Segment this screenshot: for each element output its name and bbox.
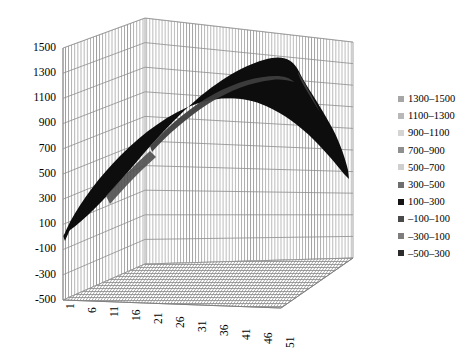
legend-item[interactable]: –300–100 bbox=[398, 228, 475, 245]
x-tick-label: 26 bbox=[175, 317, 187, 329]
legend: 1300–1500 1100–1300 900–1100 700–900 500… bbox=[398, 90, 475, 262]
legend-item[interactable]: 700–900 bbox=[398, 142, 475, 159]
legend-label: 1100–1300 bbox=[408, 110, 455, 121]
legend-swatch-icon bbox=[398, 147, 404, 153]
legend-label: –500–300 bbox=[408, 248, 450, 259]
legend-item[interactable]: –500–300 bbox=[398, 245, 475, 262]
x-tick-label: 41 bbox=[241, 329, 253, 341]
legend-swatch-icon bbox=[398, 199, 404, 205]
legend-swatch-icon bbox=[398, 250, 404, 256]
legend-item[interactable]: 100–300 bbox=[398, 193, 475, 210]
legend-item[interactable]: 1300–1500 bbox=[398, 90, 475, 107]
legend-item[interactable]: –100–100 bbox=[398, 210, 475, 227]
legend-label: 900–1100 bbox=[408, 127, 450, 138]
legend-label: –300–100 bbox=[408, 231, 450, 242]
x-tick-label: 6 bbox=[87, 307, 99, 313]
legend-item[interactable]: 1100–1300 bbox=[398, 107, 475, 124]
legend-label: –100–100 bbox=[408, 213, 450, 224]
x-tick-label: 21 bbox=[153, 313, 165, 325]
x-tick-label: 11 bbox=[109, 306, 121, 317]
legend-label: 500–700 bbox=[408, 162, 445, 173]
legend-swatch-icon bbox=[398, 130, 404, 136]
x-tick-label: 46 bbox=[263, 333, 275, 345]
legend-swatch-icon bbox=[398, 113, 404, 119]
x-tick-label: 1 bbox=[65, 303, 77, 309]
x-tick-label: 36 bbox=[219, 325, 231, 337]
legend-swatch-icon bbox=[398, 182, 404, 188]
legend-swatch-icon bbox=[398, 233, 404, 239]
surface-chart: 1500 1300 1100 900 700 500 300 100 -100 … bbox=[0, 0, 475, 357]
legend-item[interactable]: 500–700 bbox=[398, 159, 475, 176]
x-tick-label: 31 bbox=[197, 321, 209, 333]
legend-swatch-icon bbox=[398, 216, 404, 222]
x-tick-label: 51 bbox=[285, 337, 297, 349]
legend-label: 700–900 bbox=[408, 145, 445, 156]
legend-label: 100–300 bbox=[408, 196, 445, 207]
legend-label: 300–500 bbox=[408, 179, 445, 190]
legend-swatch-icon bbox=[398, 164, 404, 170]
legend-item[interactable]: 300–500 bbox=[398, 176, 475, 193]
legend-label: 1300–1500 bbox=[408, 93, 455, 104]
x-tick-label: 16 bbox=[131, 310, 143, 322]
legend-item[interactable]: 900–1100 bbox=[398, 124, 475, 141]
legend-swatch-icon bbox=[398, 96, 404, 102]
